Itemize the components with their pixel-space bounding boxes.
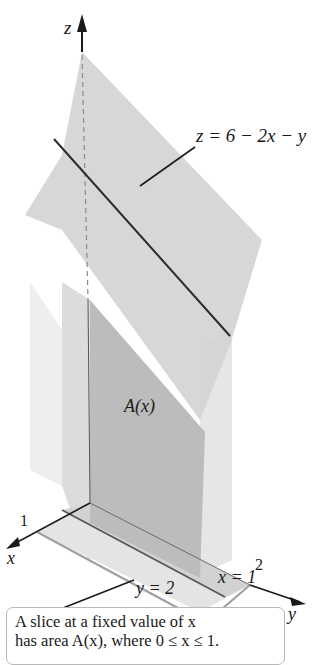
x-eq-1-label: x = 1 [218,568,256,586]
caption-leader [63,580,134,608]
z-axis-arrowhead [77,14,87,32]
solid-front-face [30,282,62,486]
y-axis-label: y [288,605,296,623]
caption-box: A slice at a fixed value of x has area A… [6,607,285,665]
x-axis-label: x [7,549,15,567]
caption-line-1: A slice at a fixed value of x [15,612,276,631]
x-tick-label: 1 [20,513,28,529]
z-axis-label: z [64,18,71,37]
y-tick-label: 2 [255,557,263,573]
y-eq-2-label: y = 2 [136,579,174,597]
caption-line-2: has area A(x), where 0 ≤ x ≤ 1. [15,631,276,650]
slice-area-label: A(x) [124,397,155,415]
plane-equation-label: z = 6 − 2x − y [196,126,306,145]
